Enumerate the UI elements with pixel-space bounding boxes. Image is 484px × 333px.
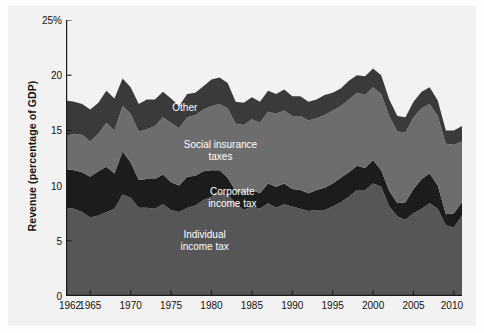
y-tick-label: 25% [28, 15, 62, 26]
y-tick-label: 0 [28, 291, 62, 302]
x-tick-label: 1965 [79, 300, 101, 311]
chart-figure: Revenue (percentage of GDP) 0510152025% … [0, 0, 484, 333]
x-tick-label: 1970 [120, 300, 142, 311]
x-tick-label: 1990 [281, 300, 303, 311]
x-tick-label: 1995 [322, 300, 344, 311]
y-tick-label: 20 [28, 70, 62, 81]
x-axis-tick-labels: 1962196519701975198019851990199520002005… [66, 300, 462, 316]
stacked-area-svg [66, 20, 462, 296]
x-tick-label: 1962 [59, 300, 81, 311]
x-tick-label: 1985 [241, 300, 263, 311]
x-tick-label: 2005 [402, 300, 424, 311]
x-tick-label: 2010 [441, 300, 463, 311]
y-tick-label: 5 [28, 235, 62, 246]
plot-area [66, 20, 462, 296]
y-axis-tick-labels: 0510152025% [26, 20, 62, 296]
x-tick-label: 1975 [160, 300, 182, 311]
x-tick-label: 1980 [200, 300, 222, 311]
y-tick-label: 10 [28, 180, 62, 191]
x-tick-label: 2000 [362, 300, 384, 311]
y-tick-label: 15 [28, 125, 62, 136]
